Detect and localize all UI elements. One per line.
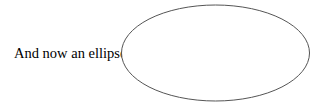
ellipse-shape: [122, 5, 310, 101]
ellipse-figure: [0, 0, 327, 107]
